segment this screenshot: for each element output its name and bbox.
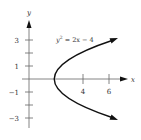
y-tick-label: −1: [9, 89, 19, 97]
x-axis-label: x: [131, 76, 135, 84]
x-axis-arrow-icon: [120, 77, 128, 82]
y-axis: y 3 1 −1 −3: [9, 9, 33, 128]
y-tick-label: 1: [15, 63, 19, 71]
curve-arrow-down-icon: [110, 115, 119, 121]
y-tick-label: 3: [15, 37, 19, 45]
equation-label: y2 = 2x − 4: [55, 35, 94, 44]
parabola-plot: y 3 1 −1 −3 x 4 6 y2 = 2x − 4: [0, 0, 141, 140]
y-tick-label: −3: [9, 115, 19, 123]
y-axis-label: y: [26, 9, 32, 17]
x-tick-label: 6: [107, 88, 112, 96]
x-axis: x 4 6: [22, 74, 135, 96]
x-tick-label: 4: [81, 88, 86, 96]
y-axis-arrow-icon: [27, 20, 32, 28]
curve-arrow-up-icon: [110, 38, 119, 44]
